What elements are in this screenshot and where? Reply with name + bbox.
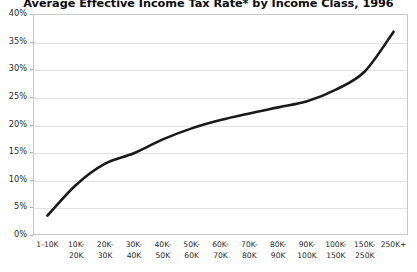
- x-tick-label-line: 150K-: [350, 240, 379, 251]
- x-tick-label: 250K+: [379, 240, 408, 251]
- y-tick-label: 5%: [14, 202, 27, 211]
- x-tick-label: 60K-70K: [206, 240, 235, 261]
- x-tick-label: 20K-30K: [91, 240, 120, 261]
- x-tick-label: 10K-20K: [62, 240, 91, 261]
- x-tick-label-line: 30K-: [120, 240, 149, 251]
- x-tick-label: 150K-250K: [350, 240, 379, 261]
- y-tick-label: 10%: [9, 175, 27, 184]
- x-tick-label-line: 80K-: [264, 240, 293, 251]
- x-tick-label-line: 70K-: [235, 240, 264, 251]
- x-tick-label-line: 30K: [91, 251, 120, 262]
- y-tick-label: 20%: [9, 120, 27, 129]
- x-tick-label-line: 100K: [293, 251, 322, 262]
- gridline: [34, 43, 407, 44]
- gridline: [34, 153, 407, 154]
- x-tick-label: 30K-40K: [120, 240, 149, 261]
- gridline: [34, 98, 407, 99]
- y-tick-label: 0%: [14, 230, 27, 239]
- plot-area: [33, 14, 408, 235]
- x-tick-label-line: 90K-: [293, 240, 322, 251]
- y-tick-label: 25%: [9, 92, 27, 101]
- gridlines: [34, 15, 407, 234]
- x-tick-label-line: 90K: [264, 251, 293, 262]
- gridline: [34, 126, 407, 127]
- y-tick-label: 35%: [9, 37, 27, 46]
- x-tick-label-line: 40K: [120, 251, 149, 262]
- x-tick-label: 80K-90K: [264, 240, 293, 261]
- x-tick-label: 70K-80K: [235, 240, 264, 261]
- x-tick-label-line: 60K: [177, 251, 206, 262]
- gridline: [34, 208, 407, 209]
- gridline: [34, 181, 407, 182]
- x-tick-label-line: 250K+: [379, 240, 408, 251]
- x-tick-label: 1-10K: [33, 240, 62, 251]
- x-tick-label-line: 70K: [206, 251, 235, 262]
- y-tick-mark: [30, 235, 33, 236]
- x-tick-label-line: 1-10K: [33, 240, 62, 251]
- x-tick-label-line: 250K: [350, 251, 379, 262]
- x-tick-label-line: 20K: [62, 251, 91, 262]
- x-tick-label: 40K-50K: [148, 240, 177, 261]
- x-tick-label-line: 80K: [235, 251, 264, 262]
- x-tick-label-line: 10K-: [62, 240, 91, 251]
- x-tick-label-line: 100K-: [321, 240, 350, 251]
- x-tick-label: 90K-100K: [293, 240, 322, 261]
- x-tick-label: 100K-150K: [321, 240, 350, 261]
- chart-container: Average Effective Income Tax Rate* by In…: [0, 0, 417, 272]
- x-tick-label-line: 20K-: [91, 240, 120, 251]
- y-tick-label: 30%: [9, 64, 27, 73]
- x-tick-label: 50K-60K: [177, 240, 206, 261]
- x-tick-label-line: 50K: [148, 251, 177, 262]
- x-tick-label-line: 150K: [321, 251, 350, 262]
- y-axis: 0%5%10%15%20%25%30%35%40%: [0, 0, 31, 272]
- x-tick-label-line: 40K-: [148, 240, 177, 251]
- y-tick-label: 40%: [9, 9, 27, 18]
- chart-title: Average Effective Income Tax Rate* by In…: [0, 0, 417, 10]
- x-tick-label-line: 60K-: [206, 240, 235, 251]
- x-axis: 1-10K10K-20K20K-30K30K-40K40K-50K50K-60K…: [33, 240, 408, 272]
- x-tick-label-line: 50K-: [177, 240, 206, 251]
- y-tick-label: 15%: [9, 147, 27, 156]
- gridline: [34, 70, 407, 71]
